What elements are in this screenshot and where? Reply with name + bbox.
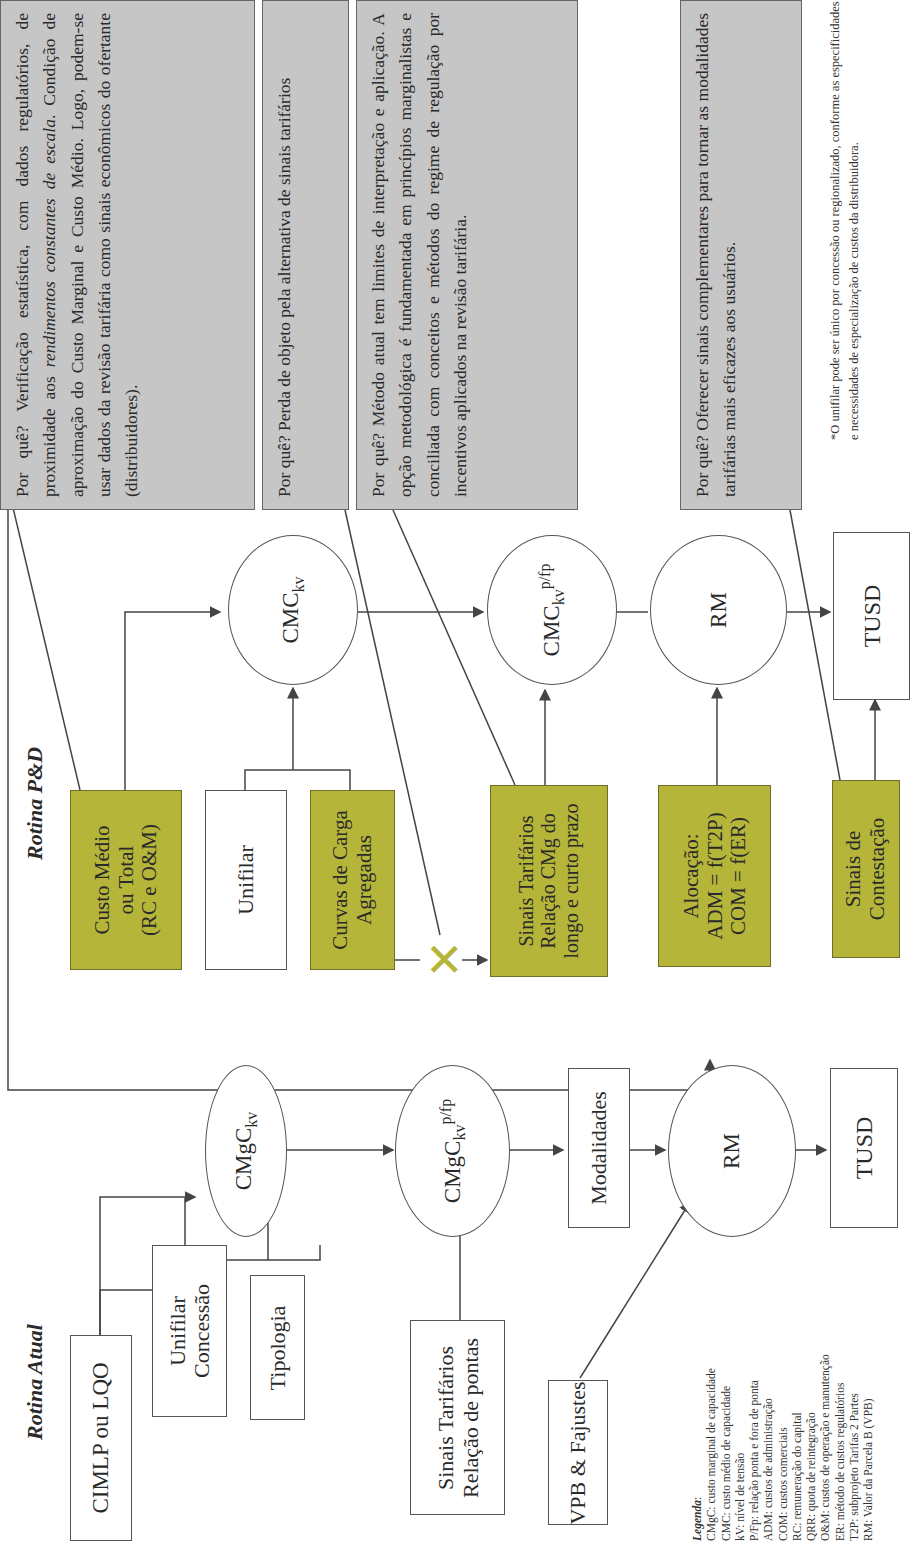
modalidades-label: Modalidades bbox=[586, 1091, 612, 1205]
rm-pd-node: RM bbox=[650, 535, 787, 685]
legend-item: ER: método de custos regulatórios bbox=[833, 1266, 847, 1541]
explanation-perda-objeto: Por quê? Perda de objeto pela alternativ… bbox=[262, 0, 349, 510]
explanation-sinais-complementares: Por quê? Oferecer sinais complementares … bbox=[680, 0, 802, 510]
legend-item: RC: remuneração do capital bbox=[790, 1266, 804, 1541]
legend-item: T2P: subprojeto Tarifas 2 Partes bbox=[847, 1266, 861, 1541]
legend-item: COM: custos comerciais bbox=[776, 1266, 790, 1541]
cimlp-box: CIMLP ou LQO bbox=[70, 1335, 132, 1541]
exp-1-italic: rendimentos constantes de escala bbox=[39, 119, 59, 367]
unifilar-label-2: Concessão bbox=[190, 1284, 214, 1378]
cmc-pfp-base: CMC bbox=[539, 605, 564, 656]
cmgc-pfp-sub: kv bbox=[451, 1125, 468, 1141]
unifilar-pd-label: Unifilar bbox=[233, 845, 259, 915]
rm-pd-label: RM bbox=[706, 592, 732, 628]
sinais-pd-label-3: longo e curto prazo bbox=[560, 804, 582, 959]
custo-medio-label-1: Custo Médio bbox=[91, 824, 115, 936]
rotina-atual-title: Rotina Atual bbox=[22, 1310, 50, 1440]
cmgc-kv-pfp-node: CMgCkvp/fp bbox=[395, 1065, 510, 1237]
tusd-atual-label: TUSD bbox=[851, 1117, 878, 1180]
custo-medio-box: Custo Médio ou Total (RC e O&M) bbox=[70, 790, 182, 970]
explanation-metodo-atual: Por quê? Método atual tem limites de int… bbox=[356, 0, 578, 510]
unifilar-pd-box: Unifilar bbox=[205, 790, 287, 970]
contestacao-label-2: Contestação bbox=[866, 818, 890, 921]
rm-atual-label: RM bbox=[719, 1133, 745, 1169]
rm-atual-node: RM bbox=[668, 1065, 796, 1237]
diagram-view: Rotina Atual CIMLP ou LQO Unifilar Conce… bbox=[0, 0, 919, 1541]
alocacao-label-2: ADM = f(T2P) bbox=[703, 812, 727, 939]
unifilar-label-1: Unifilar bbox=[165, 1284, 189, 1378]
exp-4-text: Por quê? Oferecer sinais complementares … bbox=[692, 13, 739, 497]
sinais-pd-box: Sinais Tarifários Relação CMg do longo e… bbox=[490, 785, 608, 977]
alocacao-label-1: Alocação: bbox=[679, 812, 703, 939]
legend-item: O&M: custos de operação e manutenção bbox=[818, 1266, 832, 1541]
custo-medio-label-3: (RC e O&M) bbox=[138, 824, 162, 936]
modalidades-box: Modalidades bbox=[568, 1068, 630, 1228]
custo-medio-label-2: ou Total bbox=[114, 824, 138, 936]
tusd-pd-label: TUSD bbox=[858, 585, 885, 648]
unifilar-concessao-box: Unifilar Concessão bbox=[152, 1245, 227, 1417]
contestacao-label-1: Sinais de bbox=[842, 818, 866, 921]
contestacao-box: Sinais de Contestação bbox=[832, 780, 900, 958]
cmgc-pfp-base: CMgC bbox=[439, 1141, 464, 1204]
sinais-atual-box: Sinais Tarifários Relação de pontas bbox=[410, 1320, 505, 1515]
alocacao-box: Alocação: ADM = f(T2P) COM = f(ER) bbox=[658, 785, 771, 967]
sinais-pd-label-1: Sinais Tarifários bbox=[515, 804, 537, 959]
explanation-custo-medio: Por quê? Verificação estatística, com da… bbox=[0, 0, 255, 510]
cmc-base: CMC bbox=[278, 592, 303, 643]
footnote: *O unifilar pode ser único por concessão… bbox=[826, 0, 865, 440]
tipologia-label: Tipologia bbox=[265, 1305, 291, 1390]
legend-item: ADM: custos de administração bbox=[761, 1266, 775, 1541]
cmc-sub: kv bbox=[290, 576, 307, 592]
cmc-kv-node: CMCkv bbox=[228, 535, 358, 685]
legend-item: CMC: custo médio de capacidade bbox=[719, 1266, 733, 1541]
curvas-carga-box: Curvas de Carga Agregadas bbox=[310, 790, 395, 970]
legend-item: QRR: quota de reintegração bbox=[804, 1266, 818, 1541]
sinais-atual-label-1: Sinais Tarifários bbox=[432, 1337, 457, 1497]
sinais-atual-label-2: Relação de pontas bbox=[458, 1337, 483, 1497]
cmc-pfp-sup: p/fp bbox=[536, 564, 553, 590]
x-mark-icon: ✕ bbox=[425, 935, 459, 985]
tusd-pd-box: TUSD bbox=[833, 532, 910, 700]
cmgc-base: CMgC bbox=[231, 1128, 256, 1191]
tusd-atual-box: TUSD bbox=[830, 1068, 898, 1228]
cmgc-kv-node: CMgCkv bbox=[205, 1065, 287, 1237]
tipologia-box: Tipologia bbox=[250, 1275, 305, 1420]
legend-item: RM: Valor da Parcela B (VPB) bbox=[861, 1266, 875, 1541]
cmgc-sub: kv bbox=[243, 1112, 260, 1128]
legend: Legenda: CMgC: custo marginal de capacid… bbox=[690, 1266, 875, 1541]
sinais-pd-label-2: Relação CMg do bbox=[538, 804, 560, 959]
cmgc-pfp-sup: p/fp bbox=[436, 1099, 453, 1125]
cmc-kv-pfp-node: CMCkvp/fp bbox=[487, 535, 617, 685]
exp-2-text: Por quê? Perda de objeto pela alternativ… bbox=[274, 78, 294, 497]
alocacao-label-3: COM = f(ER) bbox=[726, 812, 750, 939]
legend-item: kV: nível de tensão bbox=[733, 1266, 747, 1541]
curvas-label-2: Agregadas bbox=[353, 810, 377, 950]
exp-3-text: Por quê? Método atual tem limites de int… bbox=[368, 13, 470, 497]
curvas-label-1: Curvas de Carga bbox=[329, 810, 353, 950]
vpb-fajustes-box: VPB & Fajustes bbox=[548, 1380, 608, 1525]
cimlp-label: CIMLP ou LQO bbox=[88, 1362, 114, 1513]
legend-heading: Legenda bbox=[691, 1500, 703, 1541]
cmc-pfp-sub: kv bbox=[550, 589, 567, 605]
vpb-label: VPB & Fajustes bbox=[565, 1381, 591, 1524]
legend-item: P/Fp: relação ponta e fora de ponta bbox=[747, 1266, 761, 1541]
rotina-pd-title: Rotina P&D bbox=[22, 747, 48, 860]
legend-item: CMgC: custo marginal de capacidade bbox=[704, 1266, 718, 1541]
